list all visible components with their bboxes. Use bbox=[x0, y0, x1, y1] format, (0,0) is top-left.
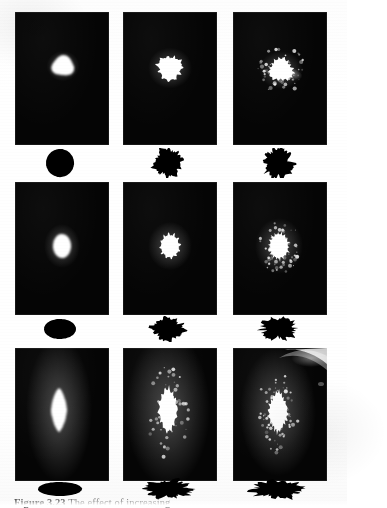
blob-layer bbox=[233, 182, 327, 315]
photo-plate bbox=[233, 348, 327, 481]
photo-plate bbox=[15, 12, 109, 145]
figure-caption-text: The effect of increasing bbox=[68, 497, 170, 508]
silhouette-shape bbox=[148, 316, 187, 342]
silhouette-shape bbox=[263, 148, 297, 178]
silhouette-lobed-oval bbox=[123, 316, 217, 342]
photo-plate bbox=[233, 182, 327, 315]
figure-cell bbox=[15, 182, 109, 315]
blob-layer bbox=[123, 12, 217, 145]
silhouette-round bbox=[15, 148, 109, 178]
blob-layer bbox=[123, 182, 217, 315]
photo-plate bbox=[123, 182, 217, 315]
figure-cell bbox=[15, 348, 109, 481]
silhouette-ragged-oval bbox=[233, 316, 327, 342]
figure-caption: Figure 3.23 The effect of increasing bbox=[14, 497, 334, 508]
silhouette-shape bbox=[257, 316, 298, 341]
blob-layer bbox=[15, 182, 109, 315]
figure-cell bbox=[233, 12, 327, 145]
silhouette-oval bbox=[15, 316, 109, 342]
silhouette-shape bbox=[44, 319, 76, 339]
figure-caption-label: Figure 3.23 bbox=[14, 497, 66, 508]
blob-layer bbox=[15, 348, 109, 481]
blob-layer bbox=[15, 12, 109, 145]
silhouette-shape bbox=[38, 482, 82, 496]
blob-layer bbox=[233, 12, 327, 145]
silhouette-lobed-round bbox=[123, 148, 217, 178]
photo-plate bbox=[123, 348, 217, 481]
photo-plate bbox=[15, 182, 109, 315]
photo-plate bbox=[15, 348, 109, 481]
photo-plate bbox=[123, 12, 217, 145]
figure-cell bbox=[233, 348, 327, 481]
blob-layer bbox=[233, 348, 327, 481]
silhouette-shape bbox=[142, 478, 196, 499]
figure-cell bbox=[15, 12, 109, 145]
figure-cell bbox=[123, 182, 217, 315]
figure-cell bbox=[123, 12, 217, 145]
photo-plate bbox=[233, 12, 327, 145]
figure-cell bbox=[233, 182, 327, 315]
silhouette-shape bbox=[46, 149, 74, 177]
silhouette-ragged-round bbox=[233, 148, 327, 178]
silhouette-shape bbox=[150, 148, 184, 178]
blob-layer bbox=[123, 348, 217, 481]
figure-cell bbox=[123, 348, 217, 481]
oval-smooth-spot bbox=[53, 234, 71, 258]
